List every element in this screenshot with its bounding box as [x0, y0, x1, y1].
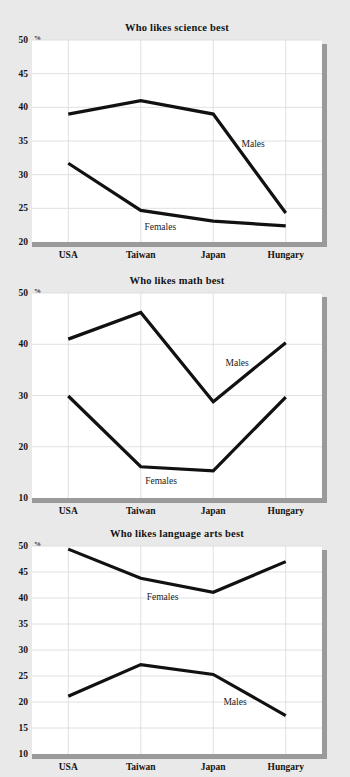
x-tick-label: Taiwan — [126, 762, 156, 772]
x-tick-label: Japan — [201, 250, 226, 260]
x-tick-label: Taiwan — [126, 250, 156, 260]
x-tick-label: USA — [59, 506, 78, 516]
series-annotation-males: Males — [242, 139, 265, 149]
x-tick-label: Japan — [201, 762, 226, 772]
x-tick-label: USA — [59, 762, 78, 772]
x-tick-label: Hungary — [268, 250, 304, 260]
series-line-females — [68, 396, 286, 471]
series-line-females — [68, 163, 286, 226]
x-tick-label: Hungary — [268, 506, 304, 516]
x-tick-label: Hungary — [268, 762, 304, 772]
series-line-males — [68, 312, 286, 401]
series-line-females — [68, 549, 286, 592]
series-line-males — [68, 665, 286, 716]
series-annotation-females: Females — [147, 592, 179, 602]
chart-science: Who likes science best % 20253035404550 … — [0, 22, 350, 267]
chart-language-arts: Who likes language arts best % 101520253… — [0, 528, 350, 777]
series-annotation-males: Males — [223, 697, 246, 707]
series-annotation-females: Females — [144, 222, 176, 232]
x-tick-label: Japan — [201, 506, 226, 516]
series-annotation-males: Males — [226, 358, 249, 368]
x-tick-label: USA — [59, 250, 78, 260]
series-annotation-females: Females — [145, 476, 177, 486]
series-line-males — [68, 101, 286, 213]
figure-page: Who likes science best % 20253035404550 … — [0, 0, 350, 777]
chart-math: Who likes math best % 1020304050 MalesFe… — [0, 275, 350, 520]
series-lines — [0, 528, 350, 777]
x-tick-label: Taiwan — [126, 506, 156, 516]
